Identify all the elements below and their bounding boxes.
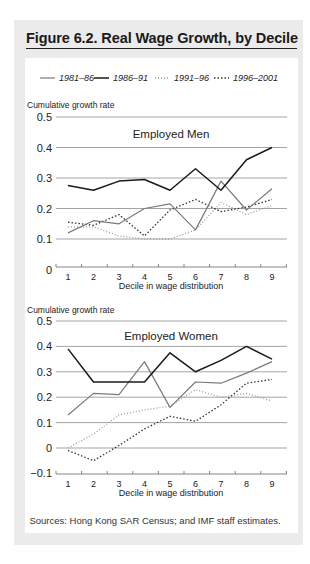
x-tick-label: 2 xyxy=(91,272,96,282)
x-axis-label: Decile in wage distribution xyxy=(119,488,224,498)
y-tick-label: 0.4 xyxy=(37,340,52,352)
legend-label: 1986–91 xyxy=(113,73,148,83)
series-line xyxy=(68,346,272,382)
y-tick-label: 0.3 xyxy=(37,172,52,184)
x-axis-label: Decile in wage distribution xyxy=(119,281,224,291)
legend-label: 1996–2001 xyxy=(233,73,278,83)
source-note: Sources: Hong Kong SAR Census; and IMF s… xyxy=(0,515,310,526)
y-axis-label: Cumulative growth rate xyxy=(27,305,115,315)
y-tick-label: 0 xyxy=(46,442,52,454)
y-tick-label: 0.2 xyxy=(37,391,52,403)
y-tick-label: 0.5 xyxy=(37,111,52,123)
series-line xyxy=(68,148,272,191)
y-tick-label: 0 xyxy=(46,264,52,276)
y-tick-label: 0.2 xyxy=(37,203,52,215)
legend-item: 1996–2001 xyxy=(214,73,278,83)
legend-item: 1981–86 xyxy=(40,73,94,83)
x-tick-label: 1 xyxy=(65,479,70,489)
chart-employed-women: Cumulative growth rate−0.100.10.20.30.40… xyxy=(27,305,287,498)
legend-item: 1986–91 xyxy=(94,73,148,83)
chart-canvas: 1981–861986–911991–961996–2001Cumulative… xyxy=(0,0,310,564)
x-tick-label: 2 xyxy=(91,479,96,489)
legend-label: 1981–86 xyxy=(59,73,94,83)
y-axis-label: Cumulative growth rate xyxy=(27,100,115,110)
y-tick-label: 0.1 xyxy=(37,233,52,245)
chart-employed-men: Cumulative growth rate00.10.20.30.40.512… xyxy=(27,100,287,291)
chart-title: Employed Women xyxy=(124,330,218,342)
series-line xyxy=(68,362,272,415)
x-tick-label: 9 xyxy=(269,479,274,489)
y-tick-label: 0.3 xyxy=(37,366,52,378)
y-tick-label: −0.1 xyxy=(30,467,52,479)
y-tick-label: 0.5 xyxy=(37,315,52,327)
y-tick-label: 0.4 xyxy=(37,142,52,154)
x-tick-label: 8 xyxy=(244,272,249,282)
x-tick-label: 1 xyxy=(65,272,70,282)
legend-label: 1991–96 xyxy=(174,73,209,83)
chart-title: Employed Men xyxy=(133,128,210,140)
x-tick-label: 9 xyxy=(269,272,274,282)
x-tick-label: 8 xyxy=(244,479,249,489)
series-line xyxy=(68,390,272,448)
y-tick-label: 0.1 xyxy=(37,417,52,429)
legend-item: 1991–96 xyxy=(155,73,209,83)
series-line xyxy=(68,379,272,460)
